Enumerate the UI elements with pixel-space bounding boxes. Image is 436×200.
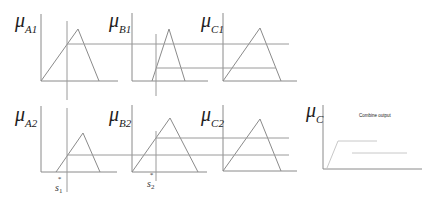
- membership-triangle-b1: [152, 29, 185, 81]
- combined-output-title: Combine output: [359, 113, 391, 118]
- label-mu-c1: μC1: [201, 10, 224, 35]
- combined-rise: [327, 141, 338, 168]
- graph-a2: [41, 106, 117, 192]
- membership-triangle-c1: [223, 28, 281, 81]
- label-mu-c2: μC2: [201, 104, 224, 129]
- label-s2-star: s2*: [147, 178, 158, 191]
- label-mu-b1: μB1: [109, 10, 131, 35]
- axis-c1: [223, 13, 297, 81]
- membership-triangle-b2: [132, 118, 198, 172]
- membership-triangle-a2: [56, 133, 100, 172]
- axis-b1: [132, 13, 208, 81]
- graph-a1: [41, 14, 118, 100]
- label-mu-c: μC: [306, 100, 323, 125]
- label-mu-a1: μA1: [15, 10, 37, 35]
- graph-b1: [132, 13, 208, 96]
- membership-triangle-c2: [223, 119, 281, 171]
- label-mu-a2: μA2: [15, 104, 37, 129]
- label-mu-b2: μB2: [109, 104, 131, 129]
- membership-triangle-a1: [41, 29, 99, 81]
- graph-b2: [132, 105, 207, 181]
- graph-c1: [223, 13, 297, 81]
- axis-a1: [41, 14, 118, 81]
- label-s1-star: s1*: [55, 182, 66, 195]
